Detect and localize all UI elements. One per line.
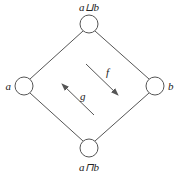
lattice-diagram: a⊔b a b a⊓b f g xyxy=(0,0,180,179)
label-a: a xyxy=(6,80,12,92)
label-f: f xyxy=(106,66,111,78)
arrow-f-icon xyxy=(86,64,118,95)
label-meet: a⊓b xyxy=(79,161,100,173)
arrow-g-icon xyxy=(62,84,94,115)
edge-right-bottom xyxy=(95,93,149,141)
edge-top-left xyxy=(30,31,83,79)
label-join: a⊔b xyxy=(79,1,100,13)
node-b xyxy=(146,77,164,95)
label-b: b xyxy=(168,80,174,92)
node-join xyxy=(80,15,98,33)
edge-left-bottom xyxy=(30,93,83,141)
edge-top-right xyxy=(95,31,149,79)
node-meet xyxy=(80,139,98,157)
node-a xyxy=(15,77,33,95)
label-g: g xyxy=(80,90,86,102)
